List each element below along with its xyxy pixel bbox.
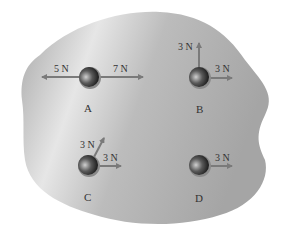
surface-shape — [22, 12, 269, 224]
puck-c — [78, 155, 98, 175]
puck-a — [79, 67, 99, 87]
force-label-a-left: 5 N — [54, 64, 69, 74]
force-label-c-right: 3 N — [103, 153, 118, 163]
puck-b — [189, 67, 209, 87]
force-label-b-right: 3 N — [215, 64, 230, 74]
diagram: 5 N 7 N A 3 N 3 N B 3 N 3 N C 3 N D — [0, 0, 284, 238]
puck-label-a: A — [84, 103, 92, 114]
force-label-a-right: 7 N — [113, 64, 128, 74]
puck-label-d: D — [195, 193, 203, 204]
puck-d — [189, 155, 209, 175]
force-label-b-up: 3 N — [178, 42, 193, 52]
surface-illustration — [0, 0, 284, 238]
force-label-d-right: 3 N — [215, 153, 230, 163]
puck-label-c: C — [84, 192, 91, 203]
puck-label-b: B — [196, 104, 203, 115]
force-label-c-diagonal: 3 N — [80, 140, 95, 150]
